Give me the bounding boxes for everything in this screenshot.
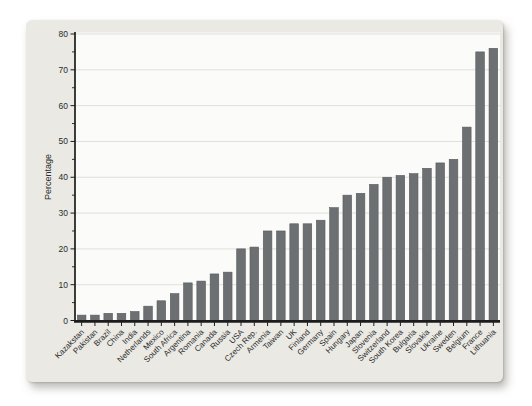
y-tick-label: 10 bbox=[59, 280, 69, 290]
bar bbox=[197, 281, 206, 320]
bar bbox=[396, 175, 405, 320]
bar bbox=[356, 193, 365, 320]
bar bbox=[303, 224, 312, 321]
y-axis-title: Percentage bbox=[43, 154, 53, 200]
bar bbox=[489, 48, 498, 320]
bar bbox=[449, 159, 458, 320]
bar bbox=[290, 224, 299, 321]
y-tick-label: 30 bbox=[59, 208, 69, 218]
y-tick-label: 80 bbox=[59, 29, 69, 39]
bar bbox=[104, 313, 113, 320]
bar bbox=[476, 52, 485, 321]
bar bbox=[130, 312, 139, 321]
y-tick-label: 40 bbox=[59, 172, 69, 182]
bar bbox=[383, 177, 392, 320]
bar bbox=[330, 208, 339, 321]
bar bbox=[277, 231, 286, 321]
bar-chart: KazakstanPakistanBrazilChinaIndiaNetherl… bbox=[0, 0, 532, 406]
y-tick-label: 70 bbox=[59, 65, 69, 75]
bar bbox=[462, 127, 471, 320]
bar bbox=[316, 220, 325, 320]
bar bbox=[184, 283, 193, 321]
bar bbox=[250, 247, 259, 320]
bar bbox=[263, 231, 272, 321]
bar bbox=[409, 174, 418, 321]
bar bbox=[77, 315, 86, 320]
y-tick-label: 0 bbox=[63, 316, 68, 326]
y-tick-label: 50 bbox=[59, 136, 69, 146]
bar bbox=[237, 249, 246, 321]
bar bbox=[170, 294, 179, 321]
bar bbox=[210, 274, 219, 321]
bar bbox=[370, 184, 379, 320]
bar bbox=[223, 272, 232, 320]
bar bbox=[91, 315, 100, 320]
bar bbox=[436, 163, 445, 321]
bar bbox=[343, 195, 352, 320]
y-tick-label: 20 bbox=[59, 244, 69, 254]
page-background: KazakstanPakistanBrazilChinaIndiaNetherl… bbox=[0, 0, 532, 406]
bar bbox=[157, 301, 166, 321]
bar bbox=[117, 313, 126, 320]
bar bbox=[423, 168, 432, 320]
bar bbox=[144, 306, 153, 320]
y-tick-label: 60 bbox=[59, 101, 69, 111]
